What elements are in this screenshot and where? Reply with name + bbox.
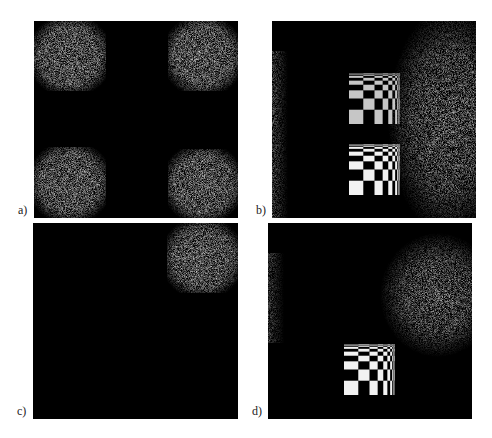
panel-d-label: d) (252, 404, 262, 419)
panel-c-image (33, 223, 238, 419)
panel-a (34, 21, 238, 218)
chirp-checkerboard (344, 344, 395, 395)
panel-d (268, 223, 472, 419)
panel-b (272, 21, 476, 218)
panel-c-label: c) (17, 404, 26, 419)
panel-d-image (268, 223, 472, 419)
panel-a-label: a) (18, 203, 27, 218)
panel-c (33, 223, 238, 419)
panel-b-image (272, 21, 476, 218)
panel-a-image (34, 21, 238, 218)
panel-b-label: b) (256, 203, 266, 218)
